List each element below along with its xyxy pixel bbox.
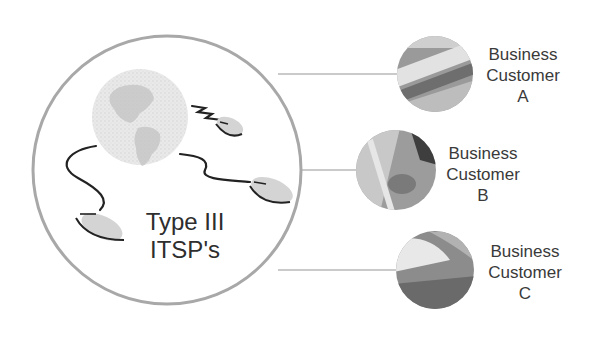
customer-a-line3: A (478, 86, 568, 107)
customer-c-photo (394, 229, 476, 311)
hub-title-line1: Type III (130, 208, 240, 236)
customer-a-label: Business Customer A (478, 44, 568, 107)
customer-b-line1: Business (438, 143, 528, 164)
customer-b-line3: B (438, 185, 528, 206)
customer-a-line1: Business (478, 44, 568, 65)
customer-c-line3: C (480, 283, 570, 304)
hub-title-line2: ITSP's (130, 236, 240, 264)
customer-c-line1: Business (480, 241, 570, 262)
customer-a-photo (395, 34, 475, 114)
hub-title: Type III ITSP's (130, 208, 240, 264)
customer-b-line2: Customer (438, 164, 528, 185)
customer-b-label: Business Customer B (438, 143, 528, 206)
customer-c-label: Business Customer C (480, 241, 570, 304)
customer-a-line2: Customer (478, 65, 568, 86)
customer-b-photo (354, 128, 438, 212)
customer-c-line2: Customer (480, 262, 570, 283)
